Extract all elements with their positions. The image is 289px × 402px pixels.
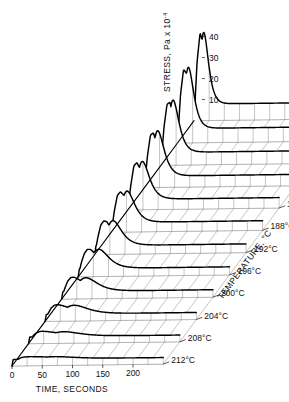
z-axis-title: STRESS, Pa x 10-4 xyxy=(162,12,173,92)
x-tick-label: 200 xyxy=(126,368,140,378)
z-tick-label: 40 xyxy=(209,32,219,42)
waterfall-chart-canvas: 05010015020010203040168°C172°C176°C180°C… xyxy=(0,0,289,402)
surface-mesh xyxy=(12,32,289,366)
z-tick-label: 20 xyxy=(209,74,219,84)
x-tick-label: 150 xyxy=(96,369,110,379)
series-label: 212°C xyxy=(171,355,195,365)
series-label: 208°C xyxy=(188,333,212,343)
x-tick-label: 0 xyxy=(10,370,15,380)
z-tick-label: 30 xyxy=(209,53,219,63)
temperature-row xyxy=(12,357,163,366)
temperature-row xyxy=(29,331,180,343)
chart-figure: 05010015020010203040168°C172°C176°C180°C… xyxy=(0,0,289,402)
x-tick-label: 100 xyxy=(65,369,79,379)
temperature-row xyxy=(62,277,213,299)
x-axis-title: TIME, SECONDS xyxy=(36,384,108,394)
left-edge xyxy=(12,121,194,366)
series-label: 184°C xyxy=(287,199,289,209)
temperature-row xyxy=(45,305,196,322)
z-axis-exponent: -4 xyxy=(162,12,168,18)
series-label: 204°C xyxy=(204,311,228,321)
x-tick-label: 50 xyxy=(38,370,48,380)
z-tick-label: 10 xyxy=(209,95,219,105)
series-label: 188°C xyxy=(271,221,289,231)
